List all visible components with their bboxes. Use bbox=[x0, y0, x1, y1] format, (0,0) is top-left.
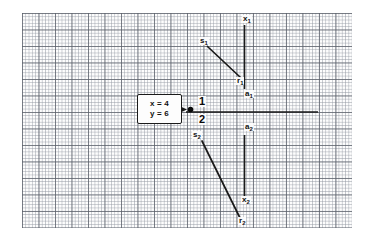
branch-1-number: 1 bbox=[198, 96, 206, 107]
label-a1-sub: 1 bbox=[249, 93, 252, 99]
label-x2-sub: 2 bbox=[246, 199, 249, 205]
label-x1: x1 bbox=[242, 15, 252, 23]
value-box-y-label: y = 6 bbox=[150, 110, 169, 118]
label-s1: s1 bbox=[199, 37, 209, 45]
branch-2-diagonal-line bbox=[202, 141, 240, 218]
label-s1-sub: 1 bbox=[204, 40, 207, 46]
label-r1: r1 bbox=[236, 77, 244, 85]
value-box: x = 4 y = 6 bbox=[137, 94, 182, 124]
figure-root: x = 4 y = 6 1 2 x1 s1 r1 a1 a2 s2 x2 r2 bbox=[0, 0, 371, 242]
diagram-overlay bbox=[0, 0, 371, 242]
branch-1-diagonal-line bbox=[208, 47, 241, 78]
label-x2: x2 bbox=[241, 196, 251, 204]
label-r2-sub: 2 bbox=[242, 220, 245, 226]
junction-node-dot bbox=[188, 107, 194, 113]
label-r1-sub: 1 bbox=[240, 80, 243, 86]
value-box-x-label: x = 4 bbox=[150, 100, 169, 108]
label-s2: s2 bbox=[192, 131, 202, 139]
label-a2: a2 bbox=[244, 123, 254, 131]
label-s2-sub: 2 bbox=[197, 134, 200, 140]
label-a1: a1 bbox=[244, 90, 254, 98]
branch-2-number: 2 bbox=[198, 114, 206, 125]
label-x1-sub: 1 bbox=[247, 18, 250, 24]
label-r2: r2 bbox=[238, 217, 246, 225]
label-a2-sub: 2 bbox=[249, 126, 252, 132]
